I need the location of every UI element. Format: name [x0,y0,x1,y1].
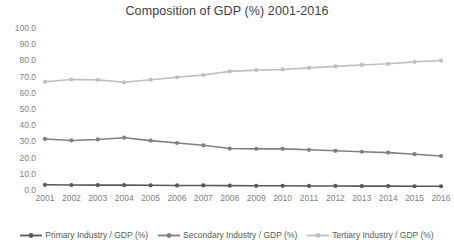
legend-marker-icon [307,231,329,240]
data-point [307,184,311,188]
data-point [333,149,337,153]
data-point [333,64,337,68]
chart-title: Composition of GDP (%) 2001-2016 [0,4,454,18]
data-point [439,58,443,62]
data-point [439,184,443,188]
data-point [386,184,390,188]
data-point [413,60,417,64]
data-point [122,80,126,84]
data-point [360,184,364,188]
legend-label: Tertiary Industry / GDP (%) [332,230,433,240]
y-axis-tick-50-0: 50.0 [19,104,36,114]
data-point [69,183,73,187]
data-point [254,68,258,72]
data-point [360,63,364,67]
x-axis: 2001200220032004200520062007200820092010… [40,193,446,209]
y-axis-tick-30-0: 30.0 [19,136,36,146]
series-1 [43,183,443,189]
data-point [413,152,417,156]
series-canvas [40,28,446,190]
x-axis-tick-2006: 2006 [168,193,187,203]
x-axis-tick-2008: 2008 [220,193,239,203]
data-point [69,138,73,142]
data-point [201,73,205,77]
x-axis-tick-2001: 2001 [36,193,55,203]
x-axis-tick-2010: 2010 [273,193,292,203]
data-point [96,78,100,82]
data-point [201,143,205,147]
data-point [96,137,100,141]
series-3 [43,58,443,84]
y-axis-tick-0-0: 0.0 [24,185,36,195]
data-point [149,138,153,142]
y-axis-tick-100-0: 100.0 [15,23,36,33]
data-point [413,184,417,188]
y-axis-tick-90-0: 90.0 [19,39,36,49]
data-point [307,66,311,70]
series-line [45,61,441,83]
y-axis-tick-70-0: 70.0 [19,72,36,82]
series-line [45,185,441,186]
data-point [439,154,443,158]
data-point [43,80,47,84]
x-axis-tick-2005: 2005 [141,193,160,203]
data-point [201,183,205,187]
x-axis-tick-2011: 2011 [300,193,318,203]
data-point [69,77,73,81]
y-axis-tick-60-0: 60.0 [19,88,36,98]
y-axis-tick-20-0: 20.0 [19,153,36,163]
y-axis-tick-80-0: 80.0 [19,55,36,65]
data-point [149,78,153,82]
legend-label: Secondary Industry / GDP (%) [183,230,297,240]
data-point [175,75,179,79]
x-axis-tick-2014: 2014 [379,193,398,203]
plot-area [40,28,446,190]
data-point [175,141,179,145]
data-point [96,183,100,187]
chart-legend: Primary Industry / GDP (%)Secondary Indu… [0,230,454,240]
x-axis-tick-2013: 2013 [352,193,371,203]
legend-marker-icon [158,231,180,240]
data-point [254,184,258,188]
x-axis-tick-2012: 2012 [326,193,345,203]
data-point [149,183,153,187]
data-point [281,67,285,71]
x-axis-tick-2016: 2016 [432,193,451,203]
y-axis-tick-40-0: 40.0 [19,120,36,130]
y-axis-tick-10-0: 10.0 [19,169,36,179]
legend-item-2[interactable]: Secondary Industry / GDP (%) [158,230,297,240]
legend-item-3[interactable]: Tertiary Industry / GDP (%) [307,230,433,240]
data-point [228,184,232,188]
legend-label: Primary Industry / GDP (%) [45,230,148,240]
data-point [386,150,390,154]
data-point [386,62,390,66]
data-point [228,146,232,150]
legend-marker-icon [20,231,42,240]
data-point [281,184,285,188]
data-point [254,147,258,151]
data-point [307,148,311,152]
x-axis-tick-2002: 2002 [62,193,81,203]
data-point [43,183,47,187]
series-line [45,138,441,156]
legend-item-1[interactable]: Primary Industry / GDP (%) [20,230,148,240]
series-2 [43,136,443,159]
gdp-composition-chart: Composition of GDP (%) 2001-2016 100.090… [0,0,454,250]
data-point [122,183,126,187]
y-axis: 100.090.080.070.060.050.040.030.020.010.… [0,28,36,190]
x-axis-tick-2009: 2009 [247,193,266,203]
data-point [122,136,126,140]
data-point [43,137,47,141]
x-axis-tick-2015: 2015 [405,193,424,203]
data-point [228,69,232,73]
x-axis-tick-2003: 2003 [88,193,107,203]
data-point [175,183,179,187]
data-point [333,184,337,188]
data-point [281,147,285,151]
x-axis-tick-2004: 2004 [115,193,134,203]
x-axis-tick-2007: 2007 [194,193,213,203]
data-point [360,150,364,154]
